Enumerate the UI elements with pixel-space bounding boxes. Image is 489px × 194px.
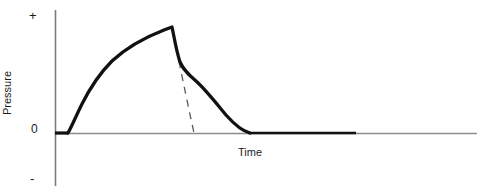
x-axis-label: Time <box>238 147 262 158</box>
y-tick-positive: + <box>29 9 37 22</box>
y-axis-label: Pressure <box>0 53 14 133</box>
pressure-time-chart: Pressure + 0 - Time <box>0 0 489 194</box>
y-tick-zero: 0 <box>31 123 38 135</box>
y-tick-negative: - <box>30 172 34 185</box>
chart-plot-area <box>0 0 489 194</box>
pressure-curve <box>68 27 250 133</box>
y-axis-label-text: Pressure <box>2 71 13 115</box>
